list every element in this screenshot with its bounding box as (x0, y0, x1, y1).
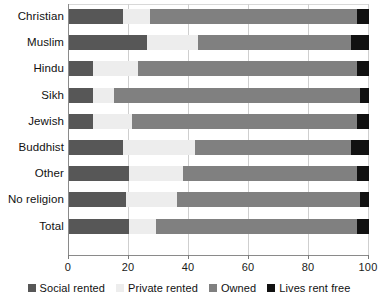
chart-legend: Social rentedPrivate rentedOwnedLives re… (0, 282, 378, 294)
bar-segment (183, 166, 357, 181)
bar-segment (129, 166, 183, 181)
legend-swatch-icon (209, 284, 217, 292)
tick-mark (368, 255, 369, 259)
bar-segment (93, 88, 114, 103)
legend-item: Private rented (116, 282, 198, 294)
stacked-bar (69, 192, 369, 207)
bar-segment (129, 219, 156, 234)
legend-label: Social rented (40, 282, 106, 294)
bar-segment (360, 88, 369, 103)
legend-item: Lives rent free (267, 282, 350, 294)
bar-row: Muslim (0, 35, 378, 50)
bar-segment (138, 61, 357, 76)
bar-segment (357, 219, 369, 234)
bar-segment (93, 61, 138, 76)
stacked-bar (69, 9, 369, 24)
stacked-bar (69, 35, 369, 50)
bar-segment (69, 219, 129, 234)
stacked-bar (69, 114, 369, 129)
bar-segment (357, 166, 369, 181)
legend-item: Social rented (28, 282, 106, 294)
bar-segment (150, 9, 357, 24)
bar-segment (69, 35, 147, 50)
tick-mark (248, 255, 249, 259)
category-label: Buddhist (0, 140, 64, 155)
bar-row: Jewish (0, 114, 378, 129)
legend-label: Lives rent free (279, 282, 350, 294)
category-label: Other (0, 166, 64, 181)
legend-swatch-icon (28, 284, 36, 292)
bar-row: Other (0, 166, 378, 181)
bar-row: Christian (0, 9, 378, 24)
legend-label: Owned (221, 282, 256, 294)
legend-item: Owned (209, 282, 256, 294)
stacked-bar (69, 88, 369, 103)
bar-row: No religion (0, 192, 378, 207)
category-label: Hindu (0, 61, 64, 76)
tick-mark (128, 255, 129, 259)
bar-segment (93, 114, 132, 129)
x-axis-tick-label: 60 (228, 261, 268, 273)
bar-segment (69, 192, 126, 207)
bar-row: Buddhist (0, 140, 378, 155)
stacked-bar (69, 166, 369, 181)
bar-segment (156, 219, 357, 234)
legend-swatch-icon (267, 284, 275, 292)
bar-row: Total (0, 219, 378, 234)
bar-segment (351, 140, 369, 155)
bar-segment (357, 9, 369, 24)
bar-segment (360, 192, 369, 207)
bar-segment (123, 9, 150, 24)
bar-segment (69, 88, 93, 103)
category-label: Jewish (0, 114, 64, 129)
x-axis-tick-label: 80 (288, 261, 328, 273)
bar-segment (357, 114, 369, 129)
bar-segment (126, 192, 177, 207)
plot-border-top (68, 4, 369, 5)
bar-row: Sikh (0, 88, 378, 103)
stacked-bar (69, 61, 369, 76)
x-axis-tick-label: 100 (348, 261, 378, 273)
legend-swatch-icon (116, 284, 124, 292)
bar-segment (357, 61, 369, 76)
x-axis-tick-label: 0 (48, 261, 88, 273)
x-axis-line (68, 255, 369, 256)
bar-segment (177, 192, 360, 207)
tick-mark (188, 255, 189, 259)
bar-segment (351, 35, 369, 50)
bar-segment (132, 114, 357, 129)
tick-mark (308, 255, 309, 259)
bar-segment (69, 166, 129, 181)
bar-segment (147, 35, 198, 50)
stacked-bar (69, 219, 369, 234)
category-label: Sikh (0, 88, 64, 103)
bar-row: Hindu (0, 61, 378, 76)
bar-segment (198, 35, 351, 50)
bar-segment (123, 140, 195, 155)
bar-segment (69, 114, 93, 129)
category-label: Muslim (0, 35, 64, 50)
legend-label: Private rented (128, 282, 198, 294)
bar-segment (69, 9, 123, 24)
x-axis-tick-label: 20 (108, 261, 148, 273)
bar-segment (114, 88, 360, 103)
category-label: No religion (0, 192, 64, 207)
bar-segment (69, 61, 93, 76)
stacked-bar-chart: 020406080100 ChristianMuslimHinduSikhJew… (0, 0, 378, 299)
category-label: Christian (0, 9, 64, 24)
bar-segment (195, 140, 351, 155)
bar-segment (69, 140, 123, 155)
stacked-bar (69, 140, 369, 155)
x-axis-tick-label: 40 (168, 261, 208, 273)
tick-mark (68, 255, 69, 259)
category-label: Total (0, 219, 64, 234)
